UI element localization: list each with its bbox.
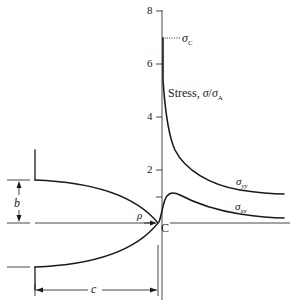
elliptical-hole-stress-diagram [0, 0, 292, 301]
ellipse-lower [35, 223, 158, 267]
sigma-xx-label: σxx [235, 201, 247, 215]
b-arrow-down-icon [17, 215, 22, 222]
tick-label-6: 6 [147, 58, 153, 69]
b-dimension-label: b [14, 197, 20, 209]
stress-axis-label: Stress, σ/σA [168, 87, 223, 102]
tick-label-8: 8 [147, 5, 153, 16]
sigma-c-label: σC [182, 32, 193, 47]
rho-label: ρ [137, 210, 142, 221]
sigma-xx-sub: xx [240, 207, 246, 215]
point-c-label: C [161, 222, 169, 234]
curve-sigma-yy [163, 38, 284, 194]
c-arrow-right-icon [150, 288, 157, 293]
tick-label-4: 4 [147, 111, 153, 122]
c-dimension-label: c [91, 283, 96, 295]
b-arrow-up-icon [17, 181, 22, 188]
stress-sub-a: A [218, 94, 223, 102]
sigma-yy-sub: yy [241, 182, 247, 190]
curve-sigma-xx [159, 193, 284, 222]
sigma-c-sub: C [188, 39, 193, 47]
c-arrow-left-icon [36, 288, 43, 293]
tick-label-2: 2 [147, 164, 153, 175]
sigma-yy-label: σyy [236, 176, 248, 190]
stress-prefix: Stress, [168, 86, 203, 100]
